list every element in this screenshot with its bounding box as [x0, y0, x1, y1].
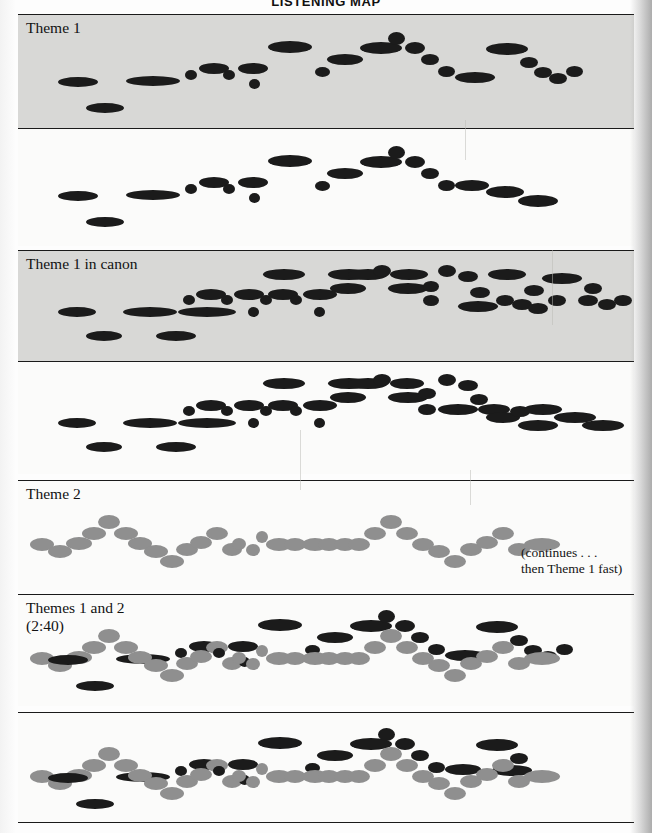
note-theme1 [566, 66, 583, 77]
listening-map: Theme 1Theme 1 in canonTheme 2Themes 1 a… [0, 0, 652, 833]
note-theme1 [528, 303, 548, 314]
note-theme1 [578, 295, 598, 306]
note-theme1 [520, 57, 538, 68]
note-theme1 [327, 168, 363, 179]
note-theme2 [364, 641, 386, 654]
note-theme1 [458, 301, 498, 312]
note-theme2 [206, 527, 228, 540]
note-theme1 [423, 281, 439, 292]
note-theme2 [524, 770, 560, 783]
note-theme2 [348, 538, 370, 551]
note-theme1 [330, 392, 366, 403]
note-theme1 [315, 67, 330, 77]
note-theme1 [455, 72, 495, 83]
note-theme1 [290, 295, 302, 305]
note-theme1 [556, 644, 573, 655]
note-theme1 [418, 404, 436, 415]
note-theme1 [178, 307, 236, 317]
note-theme1 [458, 380, 478, 391]
note-theme1 [76, 681, 114, 691]
note-theme1 [421, 168, 439, 179]
note-theme1 [548, 295, 566, 306]
note-theme1 [378, 610, 395, 623]
note-theme1 [183, 406, 195, 416]
note-theme2 [98, 747, 120, 761]
map-band-theme-1-b [18, 128, 634, 246]
note-theme1 [48, 655, 88, 665]
note-theme1 [303, 400, 337, 411]
band-label-theme-2: Theme 2 [26, 485, 81, 502]
map-band-themes-1-and-2-b [18, 712, 634, 823]
note-theme1 [388, 283, 428, 294]
note-theme1 [228, 641, 258, 652]
note-theme2 [98, 629, 120, 643]
note-theme2 [82, 527, 106, 540]
note-theme1 [330, 283, 366, 294]
note-theme1 [317, 750, 353, 761]
note-theme1 [86, 331, 122, 341]
note-theme2 [492, 759, 514, 772]
note-theme1 [183, 295, 195, 305]
note-theme1 [221, 406, 233, 416]
note-theme1 [86, 442, 122, 452]
note-theme2 [348, 652, 370, 665]
note-theme1 [373, 265, 391, 277]
note-theme1 [48, 773, 88, 783]
note-theme1 [185, 184, 197, 194]
note-theme2 [232, 770, 246, 782]
note-theme2 [444, 669, 466, 682]
note-theme1 [518, 195, 558, 207]
note-theme1 [156, 442, 196, 452]
note-theme1 [549, 73, 567, 84]
note-theme1 [86, 217, 124, 227]
note-theme1 [405, 156, 425, 168]
note-theme1 [423, 295, 439, 306]
note-theme1 [438, 265, 456, 277]
note-theme1 [290, 406, 302, 416]
note-theme1 [438, 66, 455, 77]
note-theme1 [317, 632, 353, 643]
note-theme1 [418, 388, 436, 399]
map-band-themes-1-and-2-a: Themes 1 and 2(2:40) [18, 594, 634, 706]
note-theme1 [156, 331, 196, 341]
band-label-theme-1-a: Theme 1 [26, 19, 81, 36]
note-theme1 [438, 180, 455, 191]
note-theme1 [518, 420, 558, 431]
note-theme1 [476, 621, 518, 633]
note-theme1 [268, 41, 312, 53]
note-theme1 [314, 418, 325, 428]
note-theme1 [223, 184, 235, 194]
note-theme1 [249, 79, 260, 89]
note-theme1 [388, 32, 405, 45]
note-theme1 [584, 283, 602, 294]
note-theme1 [373, 374, 391, 386]
note-theme1 [438, 404, 478, 415]
note-theme1 [582, 420, 624, 431]
note-theme1 [178, 418, 236, 428]
note-theme1 [185, 70, 197, 80]
note-theme1 [458, 271, 478, 282]
note-theme1 [76, 799, 114, 809]
note-theme1 [438, 374, 456, 386]
note-theme2 [380, 747, 402, 761]
note-theme1 [126, 76, 180, 86]
note-theme1 [470, 287, 490, 298]
note-theme1 [405, 42, 425, 54]
note-theme1 [378, 728, 395, 741]
note-theme1 [390, 269, 428, 280]
map-band-theme-1-canon-a: Theme 1 in canon [18, 250, 634, 361]
map-band-theme-1-a: Theme 1 [18, 14, 634, 128]
note-theme1 [58, 418, 96, 428]
note-theme1 [263, 269, 305, 280]
note-theme2 [246, 776, 260, 788]
note-theme1 [388, 146, 405, 159]
note-theme2 [364, 527, 386, 540]
note-theme2 [524, 652, 560, 665]
note-theme2 [396, 759, 418, 772]
note-theme2 [160, 555, 184, 568]
note-theme2 [380, 515, 402, 529]
note-theme1 [228, 759, 258, 770]
note-theme1 [455, 180, 489, 191]
note-theme1 [614, 295, 632, 306]
note-theme2 [232, 538, 246, 550]
